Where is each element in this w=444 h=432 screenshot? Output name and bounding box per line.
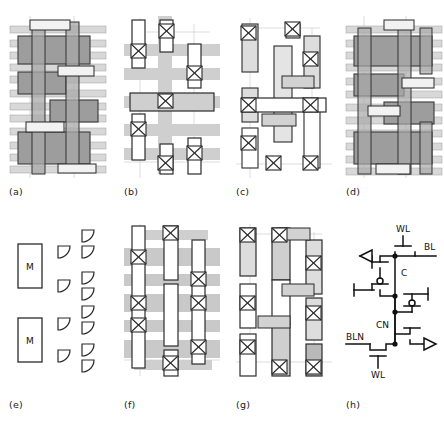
label-cn: CN	[376, 320, 389, 330]
panel-g-svg	[234, 222, 334, 378]
panel-b-svg	[122, 14, 222, 180]
panel-a-layout	[8, 14, 108, 180]
panel-d-layout	[344, 14, 444, 180]
module-box-1: M	[18, 244, 42, 288]
panel-e-svg: M M	[14, 222, 110, 372]
label-c: C	[401, 268, 407, 278]
module-label-1: M	[26, 262, 34, 272]
panel-f-svg	[122, 222, 222, 378]
panel-g-layout	[234, 222, 334, 378]
panel-f-layout	[122, 222, 222, 378]
panel-c-svg	[234, 14, 334, 180]
caption-g: (g)	[236, 399, 250, 410]
caption-d: (d)	[346, 186, 360, 197]
panel-e-legend: M M	[14, 222, 110, 372]
caption-b: (b)	[124, 186, 138, 197]
panel-c-layout	[234, 14, 334, 180]
module-box-2: M	[18, 318, 42, 362]
label-bl: BL	[424, 242, 435, 252]
label-wl-bottom: WL	[371, 370, 385, 380]
label-wl-top: WL	[396, 224, 410, 234]
caption-a: (a)	[9, 186, 23, 197]
panel-a-svg	[8, 14, 108, 180]
output-arrow-right	[424, 338, 436, 350]
label-bln: BLN	[346, 332, 364, 342]
module-label-2: M	[26, 336, 34, 346]
caption-h: (h)	[346, 399, 360, 410]
quarter-glyph-group	[58, 230, 94, 372]
caption-c: (c)	[236, 186, 249, 197]
figure-root: (a) (b)	[0, 0, 444, 432]
panel-h-schematic: WL BL C CN BLN WL	[340, 222, 442, 380]
output-arrow-left	[360, 250, 372, 262]
caption-e: (e)	[9, 399, 23, 410]
panel-h-svg: WL BL C CN BLN WL	[340, 222, 442, 380]
caption-f: (f)	[124, 399, 135, 410]
panel-b-layout	[122, 14, 222, 180]
panel-d-svg	[344, 14, 444, 180]
